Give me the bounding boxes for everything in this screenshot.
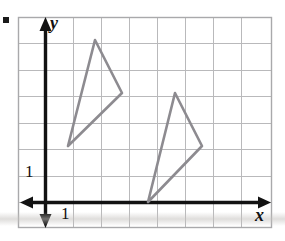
coordinate-plane-svg — [0, 0, 285, 241]
y-axis-label: y — [50, 14, 58, 32]
x-axis-unit-tick-label: 1 — [61, 205, 70, 222]
x-axis-label: x — [255, 206, 264, 224]
bullet-marker-icon — [3, 17, 9, 23]
figure-canvas: y x 1 1 — [0, 0, 285, 241]
y-axis-unit-tick-label: 1 — [25, 163, 34, 180]
grid-background — [18, 17, 272, 228]
